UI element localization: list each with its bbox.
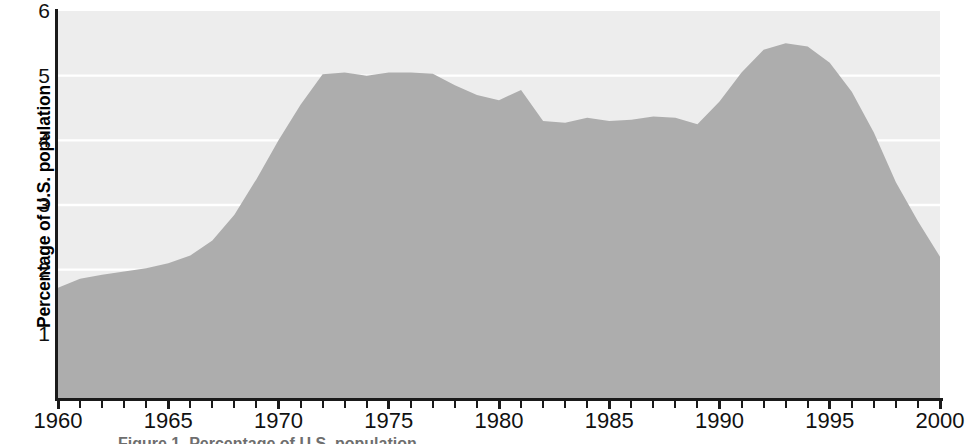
y-axis-tick-labels: 654321 [18,0,50,444]
y-axis-line [55,9,58,401]
plot-area [58,11,940,399]
x-tick-1997 [873,398,875,408]
x-tick-label-1990: 1990 [665,409,775,432]
x-tick-1961 [79,398,81,408]
x-tick-1979 [476,398,478,408]
x-tick-1999 [917,398,919,408]
x-tick-1994 [807,398,809,408]
x-tick-label-1980: 1980 [444,409,554,432]
x-tick-1978 [454,398,456,408]
x-tick-1969 [255,398,257,408]
y-tick-label-3: 3 [24,194,50,215]
area-series-group [58,43,940,399]
y-tick-label-6: 6 [24,0,50,21]
x-tick-1983 [564,398,566,408]
x-tick-1982 [542,398,544,408]
x-tick-1988 [674,398,676,408]
x-axis-tick-labels: 196019651970197519801985199019952000 [0,409,968,439]
y-tick-label-5: 5 [24,65,50,86]
x-tick-label-2000: 2000 [885,409,968,432]
x-tick-label-1965: 1965 [113,409,223,432]
clipped-caption: Figure 1. Percentage of U.S. population [118,436,818,444]
x-tick-1996 [851,398,853,408]
x-tick-1992 [763,398,765,408]
y-tick-label-1: 1 [24,323,50,344]
x-tick-1986 [630,398,632,408]
x-tick-label-1960: 1960 [3,409,113,432]
x-tick-1991 [741,398,743,408]
x-tick-label-1970: 1970 [224,409,334,432]
x-tick-label-1975: 1975 [334,409,444,432]
x-tick-1989 [696,398,698,408]
plot-svg [58,11,940,399]
x-tick-1984 [586,398,588,408]
x-tick-1971 [300,398,302,408]
x-tick-1977 [432,398,434,408]
area-series-0 [58,43,940,399]
x-tick-1993 [785,398,787,408]
x-tick-1972 [322,398,324,408]
x-tick-1968 [233,398,235,408]
x-tick-1998 [895,398,897,408]
x-tick-1964 [145,398,147,408]
x-tick-1981 [520,398,522,408]
x-tick-label-1985: 1985 [554,409,664,432]
y-tick-label-2: 2 [24,259,50,280]
y-tick-label-4: 4 [24,129,50,150]
x-tick-1976 [410,398,412,408]
x-tick-1973 [344,398,346,408]
chart-figure: Percentage of U.S. population 654321 196… [0,0,968,444]
x-tick-1974 [366,398,368,408]
x-tick-1962 [101,398,103,408]
x-tick-label-1995: 1995 [775,409,885,432]
x-tick-1967 [211,398,213,408]
x-tick-1987 [652,398,654,408]
x-tick-1966 [189,398,191,408]
x-tick-1963 [123,398,125,408]
